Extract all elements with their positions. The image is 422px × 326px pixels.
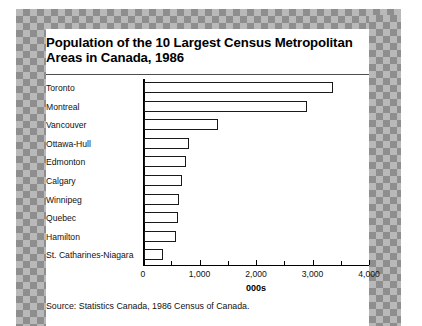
x-tick-major — [143, 260, 144, 265]
x-tick-major — [200, 260, 201, 265]
x-axis-line — [143, 265, 369, 266]
category-axis-labels: TorontoMontrealVancouverOttawa-HullEdmon… — [46, 79, 142, 265]
bar — [144, 156, 186, 167]
bar — [144, 212, 178, 223]
category-label: Vancouver — [46, 120, 142, 130]
category-label: Hamilton — [46, 232, 142, 242]
category-label: Montreal — [46, 102, 142, 112]
title-divider — [46, 74, 369, 75]
bar — [144, 138, 189, 149]
category-label: Toronto — [46, 83, 142, 93]
bar — [144, 249, 163, 260]
figure-card: Population of the 10 Largest Census Metr… — [46, 29, 369, 326]
x-tick-label: 1,000 — [189, 269, 211, 279]
x-tick-minor — [171, 261, 172, 265]
category-label: Winnipeg — [46, 195, 142, 205]
bar — [144, 175, 182, 186]
x-tick-major — [313, 260, 314, 265]
category-label: Calgary — [46, 176, 142, 186]
bar-chart: TorontoMontrealVancouverOttawa-HullEdmon… — [46, 79, 369, 289]
x-tick-label: 2,000 — [245, 269, 267, 279]
figure-title-line-1: Population of the 10 Largest Census Metr… — [46, 36, 361, 51]
checkered-border-top — [16, 9, 401, 29]
bar — [144, 231, 176, 242]
x-axis-title: 000s — [143, 283, 369, 293]
x-tick-major — [369, 260, 370, 265]
category-label: Edmonton — [46, 157, 142, 167]
x-tick-minor — [341, 261, 342, 265]
bar — [144, 194, 179, 205]
figure-title: Population of the 10 Largest Census Metr… — [46, 36, 361, 65]
x-tick-label: 0 — [141, 269, 146, 279]
category-label: Ottawa-Hull — [46, 139, 142, 149]
source-note: Source: Statistics Canada, 1986 Census o… — [46, 301, 249, 311]
plot-area — [143, 79, 369, 265]
bar — [144, 82, 333, 93]
figure-page: Population of the 10 Largest Census Metr… — [0, 0, 422, 326]
x-tick-label: 3,000 — [302, 269, 324, 279]
category-label: Quebec — [46, 213, 142, 223]
x-tick-label: 4,000 — [358, 269, 380, 279]
x-tick-major — [256, 260, 257, 265]
x-tick-minor — [284, 261, 285, 265]
checkered-border-left — [16, 9, 46, 326]
checkered-border-right — [369, 15, 401, 326]
category-label: St. Catharines-Niagara — [46, 250, 142, 260]
x-tick-minor — [228, 261, 229, 265]
bar — [144, 119, 218, 130]
figure-title-line-2: Areas in Canada, 1986 — [46, 51, 361, 66]
bar — [144, 101, 307, 112]
